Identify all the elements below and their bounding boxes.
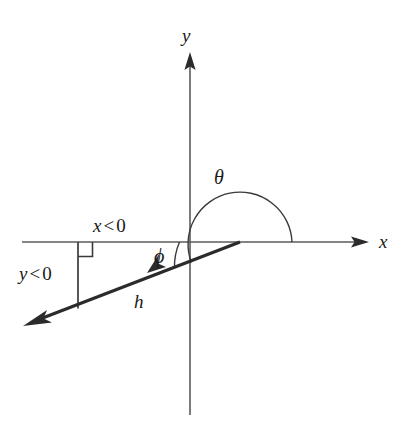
theta-label: θ	[214, 167, 224, 187]
geometry-diagram: y x θ ϕ h x<0 y<0	[0, 0, 410, 436]
hypotenuse-label: h	[134, 292, 144, 311]
y-negative-operator: <	[27, 263, 42, 284]
y-negative-value: 0	[42, 263, 52, 284]
diagram-canvas	[0, 0, 410, 436]
phi-label: ϕ	[154, 246, 164, 266]
x-axis-label: x	[379, 232, 387, 251]
x-negative-operator: <	[101, 215, 116, 236]
y-axis-label: y	[182, 26, 190, 45]
y-negative-label: y<0	[19, 264, 52, 283]
x-negative-label: x<0	[93, 216, 126, 235]
x-negative-value: 0	[116, 215, 126, 236]
hypotenuse-arrowhead-icon	[23, 310, 52, 326]
theta-angle-arc	[188, 192, 292, 262]
right-angle-marker-icon	[78, 242, 93, 257]
